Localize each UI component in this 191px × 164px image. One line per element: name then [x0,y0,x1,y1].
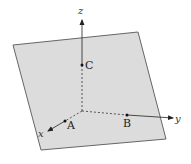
z-axis-label: z [77,5,84,16]
coordinate-diagram: z x y A B C [0,0,191,164]
point-a-label: A [66,119,76,132]
y-axis-label: y [174,113,181,124]
point-b-label: B [123,117,131,130]
x-axis-label: x [38,128,44,139]
point-c-label: C [85,59,93,72]
plane [13,32,166,150]
point-c [81,64,84,67]
